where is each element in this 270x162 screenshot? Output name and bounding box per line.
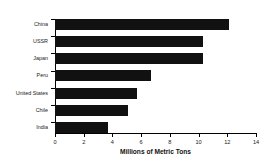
x-axis-tick	[170, 133, 171, 137]
x-axis-tick-label: 0	[53, 138, 56, 147]
x-axis-tick	[199, 133, 200, 137]
x-axis-tick	[112, 133, 113, 137]
x-axis-tick-label: 12	[224, 138, 230, 147]
bar-united-states	[55, 88, 137, 99]
bar-chart: ChinaUSSRJapanPeruUnited StatesChileIndi…	[0, 0, 270, 162]
x-axis-tick	[84, 133, 85, 137]
x-axis-tick-label: 2	[82, 138, 85, 147]
bar-row	[55, 105, 256, 116]
x-axis-tick-marks	[55, 133, 256, 137]
x-axis-tick-label: 4	[111, 138, 114, 147]
x-axis-tick-labels: 02468101214	[55, 138, 256, 147]
bar-india	[55, 122, 108, 133]
bar-row	[55, 70, 256, 81]
bar-ussr	[55, 36, 203, 47]
x-axis-tick-label: 6	[140, 138, 143, 147]
bar-row	[55, 53, 256, 64]
bar-row	[55, 19, 256, 30]
bar-peru	[55, 70, 151, 81]
y-axis-label: United States	[0, 88, 51, 99]
bar-japan	[55, 53, 203, 64]
y-axis-label: China	[0, 19, 51, 30]
x-axis-tick-label: 14	[253, 138, 259, 147]
bar-series	[55, 19, 256, 133]
bar-china	[55, 19, 229, 30]
bar-row	[55, 36, 256, 47]
x-axis-tick	[141, 133, 142, 137]
bar-row	[55, 88, 256, 99]
bar-chile	[55, 105, 128, 116]
y-axis-category-labels: ChinaUSSRJapanPeruUnited StatesChileIndi…	[0, 19, 51, 133]
x-axis-tick	[227, 133, 228, 137]
x-axis-tick	[256, 133, 257, 137]
y-axis-label: Japan	[0, 53, 51, 64]
y-axis-label: Peru	[0, 70, 51, 81]
y-axis-label: India	[0, 122, 51, 133]
y-axis-label: USSR	[0, 36, 51, 47]
bar-row	[55, 122, 256, 133]
plot-area	[55, 19, 256, 133]
x-axis-tick-label: 8	[168, 138, 171, 147]
x-axis-tick	[55, 133, 56, 137]
y-axis-label: Chile	[0, 105, 51, 116]
x-axis-tick-label: 10	[195, 138, 201, 147]
x-axis-title: Millions of Metric Tons	[55, 148, 256, 155]
